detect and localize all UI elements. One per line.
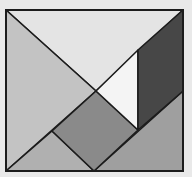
tangram-pieces — [6, 10, 183, 171]
tangram-diagram — [0, 0, 192, 177]
